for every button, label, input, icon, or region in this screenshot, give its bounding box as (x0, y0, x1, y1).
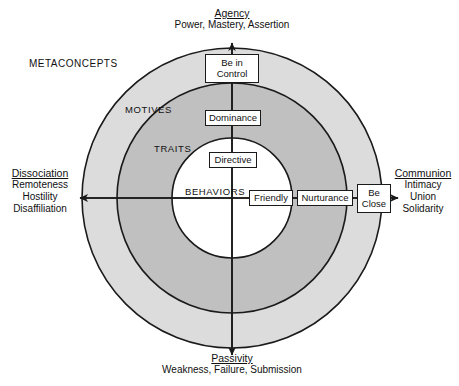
axis-title-dissociation: Dissociation (2, 167, 78, 179)
axis-line-solidarity: Solidarity (388, 203, 458, 215)
ring-label-traits: TRAITS (154, 143, 191, 154)
node-box-dominance[interactable]: Dominance (205, 110, 261, 126)
node-box-directive[interactable]: Directive (209, 152, 257, 168)
axis-label-agency: Agency Power, Mastery, Assertion (132, 7, 332, 31)
axis-line-disaffiliation: Disaffiliation (2, 203, 78, 215)
axis-line-remoteness: Remoteness (2, 179, 78, 191)
node-box-be-close[interactable]: Be Close (357, 184, 391, 213)
ring-label-behaviors: BEHAVIORS (185, 186, 245, 197)
axis-subtitle-agency: Power, Mastery, Assertion (132, 19, 332, 31)
node-box-be-in-control[interactable]: Be in Control (205, 54, 259, 83)
ring-label-motives: MOTIVES (125, 104, 172, 115)
axis-line-intimacy: Intimacy (388, 179, 458, 191)
axis-subtitle-passivity: Weakness, Failure, Submission (122, 364, 342, 376)
metaconcepts-label: METACONCEPTS (29, 58, 118, 69)
axis-line-union: Union (388, 191, 458, 203)
axis-title-passivity: Passivity (122, 352, 342, 364)
figure-container: Agency Power, Mastery, Assertion Passivi… (0, 0, 459, 386)
axis-line-hostility: Hostility (2, 191, 78, 203)
node-box-friendly[interactable]: Friendly (249, 190, 293, 206)
axis-title-communion: Communion (388, 167, 458, 179)
axis-label-passivity: Passivity Weakness, Failure, Submission (122, 352, 342, 376)
node-box-nurturance[interactable]: Nurturance (297, 190, 353, 206)
axis-title-agency: Agency (132, 7, 332, 19)
axis-label-dissociation: Dissociation Remoteness Hostility Disaff… (2, 167, 78, 215)
axis-label-communion: Communion Intimacy Union Solidarity (388, 167, 458, 215)
